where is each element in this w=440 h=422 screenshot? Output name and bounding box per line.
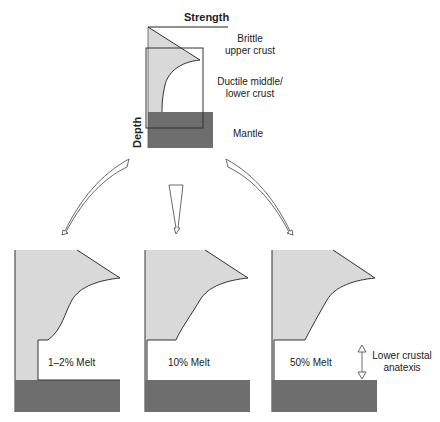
anatexis-label-1: Lower crustal xyxy=(372,350,431,361)
panel-50-percent-melt xyxy=(272,250,377,412)
mantle-label: Mantle xyxy=(233,128,263,139)
arrow-center-icon xyxy=(169,185,183,234)
panel-1-2-percent-melt xyxy=(15,250,120,412)
top-strength-profile xyxy=(146,27,228,148)
depth-label: Depth xyxy=(131,117,143,148)
panel-3-label: 50% Melt xyxy=(290,357,332,368)
ductile-label-2: lower crust xyxy=(226,88,275,99)
anatexis-label-2: anatexis xyxy=(383,362,420,373)
arrow-left-icon xyxy=(62,159,129,235)
double-arrow-icon xyxy=(358,345,366,379)
strength-label: Strength xyxy=(184,11,230,23)
rheology-diagram: Strength Depth Brittle upper crust Ducti… xyxy=(0,0,440,422)
brittle-label-2: upper crust xyxy=(225,45,275,56)
ductile-label-1: Ductile middle/ xyxy=(217,76,283,87)
panel-2-label: 10% Melt xyxy=(168,357,210,368)
brittle-label-1: Brittle xyxy=(237,33,263,44)
arrow-right-icon xyxy=(226,159,293,235)
panel-1-label: 1–2% Melt xyxy=(48,357,95,368)
panel-10-percent-melt xyxy=(145,250,250,412)
